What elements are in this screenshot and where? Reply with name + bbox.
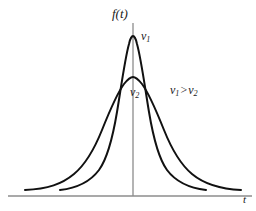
inequality-annotation: v1>v2 — [170, 84, 198, 98]
curve-label-v2-subscript: 2 — [135, 91, 139, 100]
curve-label-v1: v1 — [141, 30, 150, 44]
inequality-right-subscript: 2 — [194, 89, 198, 98]
inequality-operator: > — [179, 83, 188, 97]
distribution-figure: f(t) v1 v2 v1>v2 t — [0, 0, 256, 211]
curve-label-v1-subscript: 1 — [146, 35, 150, 44]
curve-label-v2: v2 — [130, 86, 139, 100]
figure-canvas — [0, 0, 256, 211]
x-axis-label: t — [243, 194, 246, 205]
y-axis-label: f(t) — [112, 7, 128, 20]
